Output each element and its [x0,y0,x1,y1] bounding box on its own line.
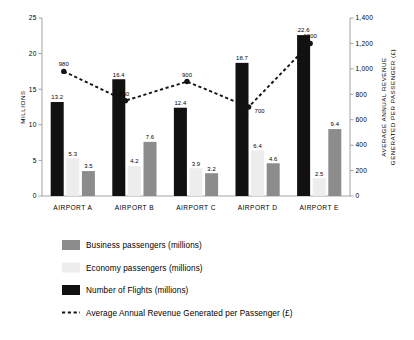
airport-statistics-chart: 051015202502004006008001,0001,2001,400MI… [0,0,414,340]
bar-value-label: 4.6 [269,156,278,162]
legend-swatch [62,263,80,273]
bar [328,129,341,196]
revenue-value-label: 900 [182,72,193,78]
category-label: AIRPORT B [115,204,155,211]
legend-swatch [62,240,80,250]
bar [128,166,141,196]
bar [66,158,79,196]
left-axis-tick-label: 20 [29,50,37,57]
right-axis-tick-label: 0 [356,192,360,199]
revenue-data-point [184,79,189,84]
category-label: AIRPORT C [176,204,216,211]
bar [51,102,64,196]
left-axis-tick-label: 15 [29,86,37,93]
bar-value-label: 3.5 [84,163,93,169]
bar-value-label: 6.4 [253,143,262,149]
chart-container: 051015202502004006008001,0001,2001,400MI… [0,0,414,340]
bar [267,163,280,196]
bar [144,142,157,196]
revenue-data-point [246,104,251,109]
legend-label: Economy passengers (millions) [86,264,203,273]
bar [251,150,264,196]
bar [236,63,249,196]
category-label: AIRPORT D [238,204,278,211]
legend-label: Average Annual Revenue Generated per Pas… [86,309,293,318]
right-axis-tick-label: 600 [356,116,368,123]
bar-value-label: 13.2 [51,94,63,100]
left-axis-tick-label: 25 [29,14,37,21]
legend-label: Number of Flights (millions) [86,286,189,295]
bar-value-label: 4.2 [130,158,139,164]
right-axis-tick-label: 1,200 [356,40,374,47]
right-axis-tick-label: 800 [356,91,368,98]
revenue-data-point [123,98,128,103]
bars-layer: 13.25.33.516.44.27.612.43.93.218.76.44.6… [51,27,342,196]
legend-swatch [62,285,80,295]
bar-value-label: 9.4 [331,121,340,127]
bar [174,108,187,196]
bar [205,173,218,196]
bar-value-label: 5.3 [69,151,78,157]
revenue-value-label: 980 [59,61,70,67]
bar-value-label: 3.9 [192,161,201,167]
right-axis-title-line2: GENERATED PER PASSENGER (£) [389,49,396,165]
right-axis-tick-label: 200 [356,167,368,174]
chart-legend: Business passengers (millions)Economy pa… [62,240,293,318]
category-label: AIRPORT A [53,204,92,211]
bar-value-label: 7.6 [146,134,155,140]
left-axis-tick-label: 5 [33,157,37,164]
bar [82,171,95,196]
left-axis-tick-label: 10 [29,121,37,128]
left-axis-tick-label: 0 [33,192,37,199]
revenue-value-label: 750 [119,91,130,97]
left-axis-title: MILLIONS [19,90,26,123]
revenue-value-label: 1200 [303,33,317,39]
revenue-data-point [308,41,313,46]
bar [297,35,310,196]
category-label: AIRPORT E [300,204,340,211]
revenue-data-point [61,69,66,74]
bar-value-label: 2.5 [315,171,324,177]
right-axis-tick-label: 1,000 [356,65,374,72]
right-axis-title: AVERAGE ANNUAL REVENUE [380,57,387,156]
bar-value-label: 18.7 [236,55,248,61]
bar-value-label: 16.4 [113,72,125,78]
revenue-value-label: 700 [255,108,266,114]
right-axis-tick-label: 1,400 [356,14,374,21]
bar-value-label: 3.2 [207,166,216,172]
bar-value-label: 12.4 [174,100,186,106]
legend-label: Business passengers (millions) [86,241,202,250]
right-axis-tick-label: 400 [356,141,368,148]
bar [190,168,203,196]
revenue-line-series: 9807509007001200 [59,33,318,114]
bar [313,178,326,196]
